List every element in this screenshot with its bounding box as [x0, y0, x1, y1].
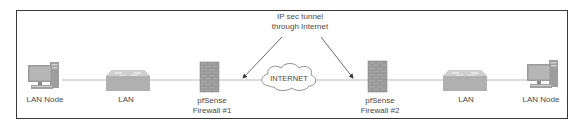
- firewall-2-label-line1: pfSense: [365, 96, 394, 106]
- firewall-2-label-line2: Firewall #2: [361, 106, 400, 116]
- lan-right-label: LAN: [458, 95, 474, 105]
- computer-icon: [28, 62, 59, 89]
- computer-icon: [527, 60, 558, 88]
- switch-icon: [443, 70, 487, 91]
- tunnel-label-line1: IP sec tunnel: [277, 12, 323, 22]
- lan-left-label: LAN: [118, 95, 134, 105]
- firewall-1-label-line1: pfSense: [197, 96, 226, 106]
- internet-label: INTERNET: [270, 74, 308, 84]
- firewall-icon: [368, 61, 387, 92]
- switch-icon: [106, 70, 150, 91]
- tunnel-label-line2: through Internet: [272, 22, 328, 32]
- arrow-to-firewall-2: [321, 37, 353, 78]
- lan-node-left-label: LAN Node: [27, 95, 64, 105]
- firewall-icon: [200, 62, 219, 92]
- firewall-1-label-line2: Firewall #1: [193, 106, 232, 116]
- lan-node-right-label: LAN Node: [523, 95, 560, 105]
